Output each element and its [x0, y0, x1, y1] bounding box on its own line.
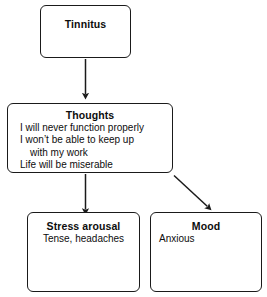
- node-mood-body: Anxious: [151, 233, 261, 245]
- node-stress-arousal-title: Stress arousal: [28, 220, 139, 232]
- node-thoughts-body: I will never function properly I won’t b…: [8, 122, 172, 172]
- node-thoughts-line-3: with my work: [20, 147, 172, 159]
- node-thoughts-line-2: I won’t be able to keep up: [20, 134, 172, 146]
- node-thoughts-line-4: Life will be miserable: [20, 159, 172, 171]
- node-mood: Mood Anxious: [150, 212, 262, 292]
- node-thoughts: Thoughts I will never function properly …: [7, 103, 173, 173]
- node-tinnitus: Tinnitus: [40, 5, 131, 58]
- arrow-thoughts-to-mood: [174, 176, 208, 207]
- node-mood-line-1: Anxious: [159, 233, 261, 245]
- node-thoughts-title: Thoughts: [8, 109, 172, 121]
- node-thoughts-line-1: I will never function properly: [20, 122, 172, 134]
- node-stress-arousal: Stress arousal Tense, headaches: [27, 212, 140, 292]
- node-stress-arousal-body: Tense, headaches: [28, 233, 139, 245]
- node-tinnitus-title: Tinnitus: [41, 18, 130, 30]
- diagram-canvas: Tinnitus Thoughts I will never function …: [0, 0, 267, 297]
- node-mood-title: Mood: [151, 220, 261, 232]
- node-stress-arousal-line-1: Tense, headaches: [28, 233, 139, 245]
